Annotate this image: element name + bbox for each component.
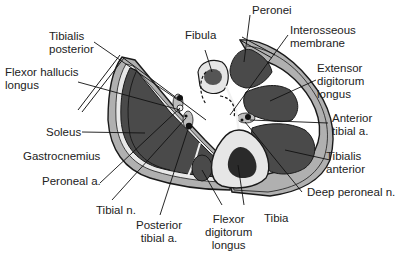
label-text: Anterior xyxy=(332,112,372,125)
label-fibula: Fibula xyxy=(185,29,216,42)
label-text: tibial a. xyxy=(136,232,182,245)
label-text: Flexor xyxy=(205,213,252,226)
label-text: Fibula xyxy=(185,29,216,42)
label-text: Extensor xyxy=(317,62,364,75)
label-flexor-digitorum-longus: Flexor digitorum longus xyxy=(205,213,252,252)
label-text: posterior xyxy=(49,43,94,56)
label-tibialis-posterior: Tibialis posterior xyxy=(49,30,94,56)
label-text: Tibialis xyxy=(49,30,94,43)
label-text: Posterior xyxy=(136,219,182,232)
label-tibial-n: Tibial n. xyxy=(96,204,136,217)
label-text: Tibial n. xyxy=(96,204,136,217)
label-text: digitorum xyxy=(205,226,252,239)
label-extensor-digitorum-longus: Extensor digitorum longus xyxy=(317,62,364,101)
label-text: Soleus xyxy=(46,126,81,139)
label-flexor-hallucis-longus: Flexor hallucis longus xyxy=(5,66,79,92)
label-text: anterior xyxy=(326,163,365,176)
label-deep-peroneal-n: Deep peroneal n. xyxy=(307,186,395,199)
label-tibia: Tibia xyxy=(264,212,289,225)
label-posterior-tibial-a: Posterior tibial a. xyxy=(136,219,182,245)
label-text: membrane xyxy=(290,37,356,50)
label-text: Interosseous xyxy=(290,24,356,37)
label-text: Deep peroneal n. xyxy=(307,186,395,199)
label-text: Tibia xyxy=(264,212,289,225)
label-text: digitorum xyxy=(317,75,364,88)
label-text: Peroneal a. xyxy=(42,175,101,188)
label-text: longus xyxy=(5,79,79,92)
label-text: Gastrocnemius xyxy=(23,150,100,163)
label-text: Flexor hallucis xyxy=(5,66,79,79)
label-interosseous-membrane: Interosseous membrane xyxy=(290,24,356,50)
label-text: Peronei xyxy=(252,4,292,17)
label-text: longus xyxy=(317,88,364,101)
label-text: longus xyxy=(205,239,252,252)
label-tibialis-anterior: Tibialis anterior xyxy=(326,150,365,176)
label-anterior-tibial-a: Anterior tibial a. xyxy=(332,112,372,138)
label-text: Tibialis xyxy=(326,150,365,163)
label-peronei: Peronei xyxy=(252,4,292,17)
label-gastrocnemius: Gastrocnemius xyxy=(23,150,100,163)
label-text: tibial a. xyxy=(332,125,372,138)
label-peroneal-a: Peroneal a. xyxy=(42,175,101,188)
label-soleus: Soleus xyxy=(46,126,81,139)
